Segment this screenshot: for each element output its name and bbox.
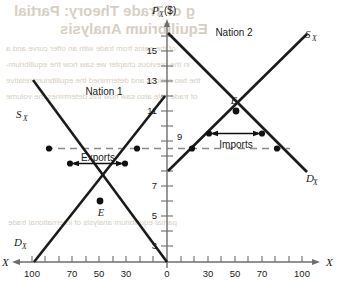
exports-label: Exports	[81, 152, 115, 163]
point-n2-demand-at-world-price	[274, 145, 280, 151]
nation2-supply-label-main: S	[305, 28, 311, 40]
point-n2-supply-at-world-price	[189, 145, 195, 151]
equilibrium-label-nation-2: E	[230, 95, 238, 106]
x-tick-label-left-70: 70	[67, 268, 78, 279]
y-tick-label-5: 5	[152, 210, 157, 221]
chart-canvas: P X ($) X X 15 13 11 7 5 3 9 100 70 50 3…	[0, 0, 341, 287]
point-n1-supply-at-world-price	[46, 145, 52, 151]
nation2-demand-label: D X	[305, 172, 318, 187]
nation1-supply-label: S X	[16, 108, 28, 123]
nation1-demand-label-main: D	[13, 236, 22, 248]
equilibrium-label-nation-1: E	[97, 207, 105, 218]
nation2-supply-label-sub: X	[311, 34, 317, 43]
nation2-supply-label: S X	[305, 28, 317, 43]
y-tick-label-9: 9	[177, 131, 182, 142]
x-tick-label-left-50: 50	[94, 268, 105, 279]
x-tick-label-right-30: 30	[203, 268, 214, 279]
panel-label-nation-1: Nation 1	[85, 86, 123, 97]
nation1-supply-label-sub: X	[22, 114, 28, 123]
y-axis-title-main: P	[151, 4, 159, 16]
x-tick-label-right-100: 100	[294, 268, 310, 279]
point-n1-demand-at-world-price	[134, 145, 140, 151]
x-axis-left-arrowhead	[12, 259, 20, 265]
x-tick-label-right-70: 70	[257, 268, 268, 279]
nation2-curves	[168, 33, 307, 172]
imports-label: Imports	[219, 139, 252, 150]
nation1-supply-label-main: S	[16, 108, 22, 120]
x-tick-label-left-30: 30	[121, 268, 132, 279]
point-n1-equilibrium	[97, 198, 104, 205]
y-tick-label-7: 7	[152, 180, 157, 191]
y-tick-label-15: 15	[146, 45, 157, 56]
y-tick-label-13: 13	[146, 75, 157, 86]
y-tick-label-3: 3	[152, 240, 157, 251]
y-axis-title: P X ($)	[151, 4, 176, 19]
x-tick-label-right-50: 50	[230, 268, 241, 279]
chart-figure: g of Trade Theory: Partial Equilibrium A…	[0, 0, 341, 287]
x-tick-labels-left: 100 70 50 30 0	[24, 268, 170, 279]
x-axis-right-arrowhead	[312, 259, 320, 265]
x-tick-label-origin: 0	[164, 268, 169, 279]
x-axis-title-right: X	[325, 256, 334, 268]
y-axis-title-unit: ($)	[164, 5, 176, 16]
x-tick-label-left-100: 100	[24, 268, 40, 279]
nation1-demand-label-sub: X	[21, 242, 27, 251]
nation1-demand-label: D X	[13, 236, 27, 251]
x-axis-title-left: X	[1, 256, 10, 268]
y-axis-arrowhead	[164, 19, 170, 27]
point-n2-equilibrium	[233, 108, 240, 115]
nation1-demand-curve	[34, 96, 165, 262]
x-tick-labels-right: 30 50 70 100	[203, 268, 310, 279]
panel-label-nation-2: Nation 2	[215, 27, 253, 38]
y-tick-label-11: 11	[147, 105, 157, 116]
nation2-demand-label-sub: X	[312, 178, 318, 187]
imports-arrow	[210, 131, 261, 136]
